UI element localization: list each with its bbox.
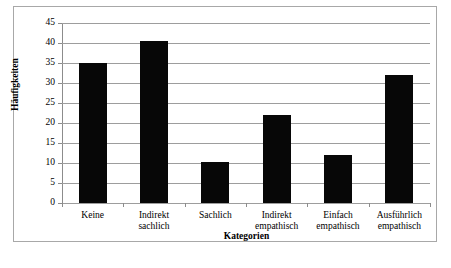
x-axis-tick-mark — [62, 203, 63, 207]
y-axis-tick-label: 40 — [46, 38, 56, 48]
x-axis-tick-mark — [123, 203, 124, 207]
y-axis-tick-mark — [58, 123, 62, 124]
gridline — [62, 83, 430, 84]
y-axis-tick-mark — [58, 23, 62, 24]
gridline — [62, 163, 430, 164]
y-axis-tick-mark — [58, 63, 62, 64]
y-axis-tick-label: 45 — [46, 18, 56, 28]
y-axis-tick-mark — [58, 163, 62, 164]
chart-frame: 051015202530354045 Häufigkeiten Kategori… — [13, 6, 437, 242]
y-axis-tick-label: 0 — [50, 198, 55, 208]
x-axis-tick-mark — [369, 203, 370, 207]
gridline — [62, 63, 430, 64]
y-axis-tick-label: 15 — [46, 138, 56, 148]
bar — [79, 63, 107, 203]
x-axis-tick-mark — [430, 203, 431, 207]
x-axis-tick-mark — [185, 203, 186, 207]
y-axis-tick-label: 25 — [46, 98, 56, 108]
bar — [201, 162, 229, 203]
gridline — [62, 43, 430, 44]
gridline — [62, 123, 430, 124]
x-axis-category-label: Einfach empathisch — [307, 210, 368, 232]
x-axis-category-label: Indirekt sachlich — [123, 210, 184, 232]
x-axis-tick-mark — [307, 203, 308, 207]
x-axis-category-label: Sachlich — [185, 210, 246, 221]
bar — [140, 41, 168, 203]
gridline — [62, 183, 430, 184]
x-axis-category-label: Indirekt empathisch — [246, 210, 307, 232]
y-axis-tick-labels: 051015202530354045 — [14, 7, 55, 241]
y-axis-title: Häufigkeiten — [10, 58, 20, 111]
y-axis-tick-label: 20 — [46, 118, 56, 128]
y-axis-tick-mark — [58, 183, 62, 184]
y-axis-tick-mark — [58, 103, 62, 104]
x-axis-category-label: Ausführlich empathisch — [369, 210, 430, 232]
x-axis-title: Kategorien — [62, 231, 431, 241]
x-axis-category-label: Keine — [62, 210, 123, 221]
y-axis-tick-label: 5 — [50, 178, 55, 188]
y-axis-tick-mark — [58, 143, 62, 144]
y-axis-tick-mark — [58, 43, 62, 44]
y-axis-tick-label: 30 — [46, 78, 56, 88]
x-axis-tick-mark — [246, 203, 247, 207]
y-axis-tick-label: 10 — [46, 158, 56, 168]
bar — [263, 115, 291, 203]
y-axis-tick-mark — [58, 83, 62, 84]
gridline — [62, 143, 430, 144]
y-axis-tick-label: 35 — [46, 58, 56, 68]
plot-area — [62, 23, 430, 203]
bar — [324, 155, 352, 203]
gridline — [62, 103, 430, 104]
gridline — [62, 23, 430, 24]
bar — [385, 75, 413, 203]
